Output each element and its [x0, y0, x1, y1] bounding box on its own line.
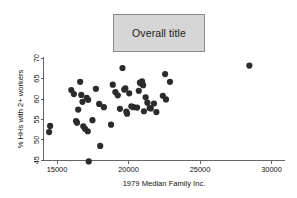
data-point	[85, 128, 91, 134]
y-tick-label-50: 50	[32, 136, 41, 144]
data-point	[143, 94, 149, 100]
x-tick-label-25000: 25000	[190, 165, 211, 174]
data-point	[134, 104, 140, 110]
data-point	[101, 104, 107, 110]
y-tick-label-65: 65	[32, 74, 41, 82]
y-axis-title: % HHs with 2+ workers	[16, 69, 25, 148]
data-point	[46, 129, 52, 135]
data-point	[74, 120, 80, 126]
data-point	[97, 143, 103, 149]
data-point	[163, 96, 169, 102]
data-point	[108, 122, 114, 128]
data-point	[140, 82, 146, 88]
x-tick-label-30000: 30000	[261, 165, 282, 174]
x-axis-title: 1979 Median Family Inc.	[123, 179, 206, 188]
scatter-plot: 45 50 55 60 65 70 % HHs with 2+ workers …	[0, 0, 297, 198]
data-point	[141, 108, 147, 114]
data-point	[167, 79, 173, 85]
data-point	[86, 158, 92, 164]
y-tick-label-55: 55	[32, 115, 41, 123]
data-points-layer	[46, 62, 252, 164]
data-point	[47, 123, 53, 129]
data-point	[89, 117, 95, 123]
y-axis-tick-labels: 45 50 55 60 65 70	[32, 54, 41, 164]
data-point	[71, 91, 77, 97]
data-point	[122, 85, 128, 91]
data-point	[93, 86, 99, 92]
y-tick-label-70: 70	[32, 54, 41, 62]
data-point	[126, 90, 132, 96]
data-point	[117, 106, 123, 112]
y-tick-label-45: 45	[32, 156, 41, 164]
data-point	[75, 107, 81, 113]
data-point	[124, 111, 130, 117]
x-tick-label-15000: 15000	[47, 165, 68, 174]
data-point	[115, 92, 121, 98]
data-point	[144, 100, 150, 106]
data-point	[110, 82, 116, 88]
y-tick-label-60: 60	[32, 95, 41, 103]
data-point	[153, 109, 159, 115]
x-tick-label-20000: 20000	[118, 165, 139, 174]
data-point	[85, 97, 91, 103]
data-point	[77, 79, 83, 85]
data-point	[78, 92, 84, 98]
data-point	[246, 62, 252, 68]
data-point	[119, 65, 125, 71]
data-point	[151, 100, 157, 106]
data-point	[136, 88, 142, 94]
data-point	[162, 71, 168, 77]
figure-canvas: Overall title 45 50 55 60 65 70 % HHs wi…	[0, 0, 297, 198]
x-axis-tick-labels: 15000 20000 25000 30000	[47, 165, 282, 174]
